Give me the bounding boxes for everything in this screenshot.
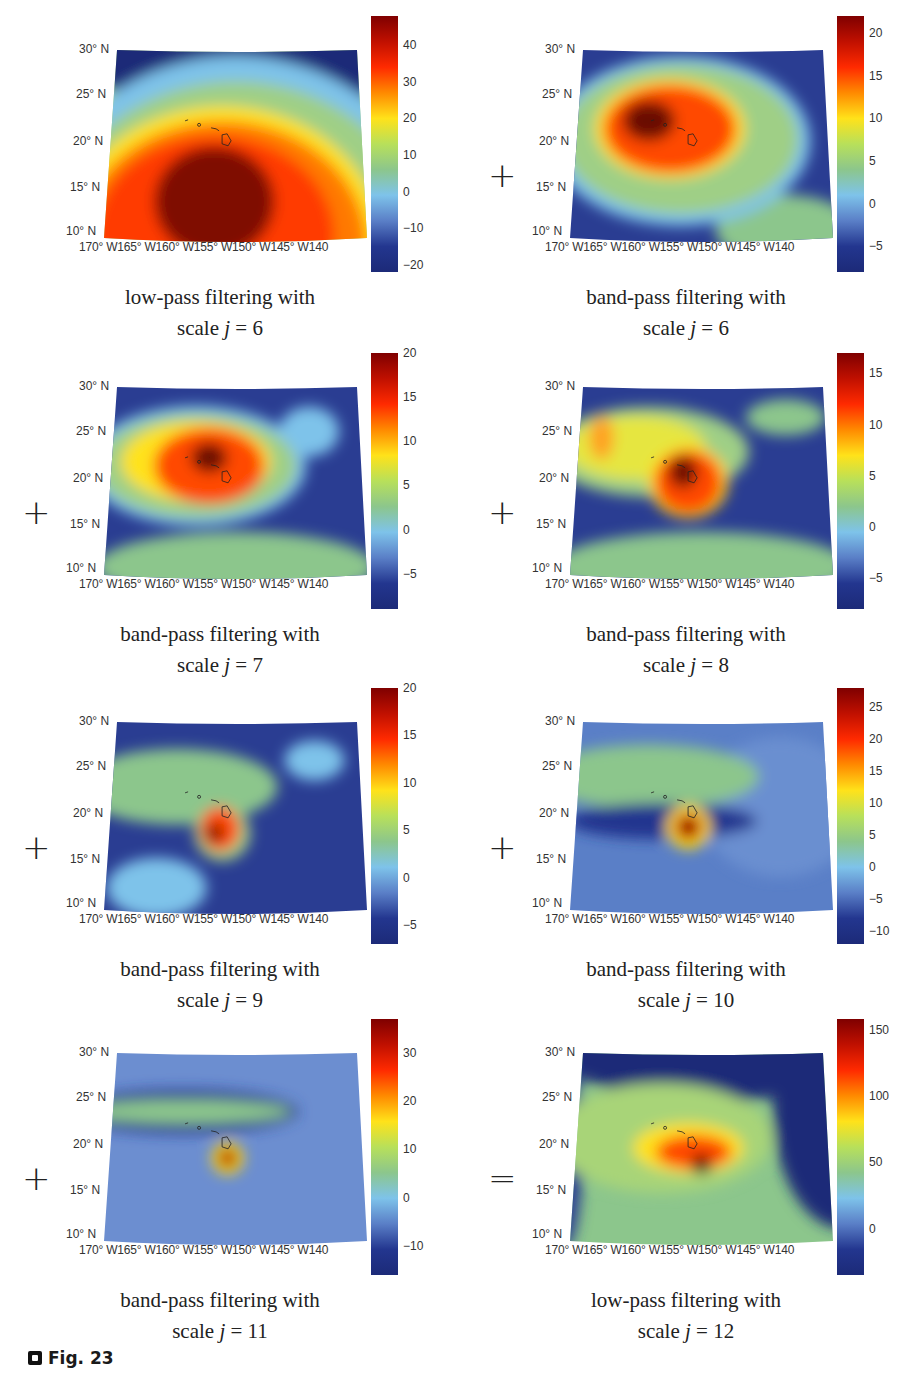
caption-scale-text: scale (638, 1319, 685, 1343)
latitude-label: 20° N (539, 471, 569, 485)
latitude-label: 25° N (76, 87, 106, 101)
latitude-label: 30° N (79, 714, 109, 728)
latitude-label: 30° N (545, 714, 575, 728)
colorbar-tick: 20 (869, 27, 882, 39)
figure-marker-icon (28, 1351, 42, 1365)
latitude-label: 30° N (79, 379, 109, 393)
caption-line-1: band-pass filtering with (536, 619, 836, 650)
panel-bp8: 151050−530° N25° N20° N15° N10° N170° W1… (466, 337, 906, 667)
heatmap-bp11 (0, 1003, 440, 1283)
caption-line-1: band-pass filtering with (536, 954, 836, 985)
colorbar-tick: 20 (869, 733, 882, 745)
caption-scale-text: scale (172, 1319, 219, 1343)
colorbar-tick: 30 (403, 76, 416, 88)
colorbar-tick: 30 (403, 1047, 416, 1059)
panel-caption: low-pass filtering withscale j = 6 (70, 282, 370, 344)
latitude-label: 15° N (70, 517, 100, 531)
longitude-labels: 170° W165° W160° W155° W150° W145° W140 (79, 240, 328, 254)
heatmap-bp9 (0, 672, 440, 952)
heatmap-bp6 (466, 0, 906, 280)
colorbar-tick: 0 (869, 198, 876, 210)
colorbar-tick: 10 (869, 797, 882, 809)
colorbar-bp9 (371, 688, 398, 944)
latitude-label: 10° N (66, 561, 96, 575)
heatmap-bp10 (466, 672, 906, 952)
caption-line-1: band-pass filtering with (536, 282, 836, 313)
colorbar-tick: 5 (869, 155, 876, 167)
colorbar-tick: −10 (869, 925, 889, 937)
colorbar-tick: −10 (403, 1240, 423, 1252)
colorbar-tick: 15 (403, 391, 416, 403)
latitude-label: 10° N (532, 224, 562, 238)
colorbar-bp7 (371, 353, 398, 609)
caption-line-1: low-pass filtering with (70, 282, 370, 313)
figure-label: Fig. 23 (28, 1348, 114, 1368)
colorbar-tick: 15 (403, 729, 416, 741)
colorbar-tick: 10 (403, 149, 416, 161)
caption-line-1: band-pass filtering with (70, 1285, 370, 1316)
plus-operator: + (22, 830, 51, 864)
colorbar-tick: −10 (403, 222, 423, 234)
latitude-label: 10° N (532, 896, 562, 910)
colorbar-tick: 15 (869, 70, 882, 82)
colorbar-tick: 10 (869, 419, 882, 431)
colorbar-tick: 0 (403, 1192, 410, 1204)
latitude-label: 30° N (79, 42, 109, 56)
colorbar-tick: 20 (403, 682, 416, 694)
latitude-label: 15° N (536, 180, 566, 194)
colorbar-tick: −5 (869, 240, 883, 252)
latitude-label: 10° N (532, 561, 562, 575)
latitude-label: 20° N (539, 134, 569, 148)
caption-line-1: band-pass filtering with (70, 619, 370, 650)
colorbar-tick: −5 (869, 572, 883, 584)
colorbar-tick: 5 (403, 824, 410, 836)
latitude-label: 30° N (545, 1045, 575, 1059)
colorbar-tick: −5 (403, 919, 417, 931)
figure-label-text: Fig. 23 (48, 1348, 114, 1368)
longitude-labels: 170° W165° W160° W155° W150° W145° W140 (545, 577, 794, 591)
plus-operator: + (488, 158, 517, 192)
colorbar-tick: 25 (869, 701, 882, 713)
colorbar-bp8 (837, 353, 864, 609)
colorbar-bp11 (371, 1019, 398, 1275)
colorbar-tick: 40 (403, 39, 416, 51)
panel-caption: low-pass filtering withscale j = 12 (536, 1285, 836, 1347)
longitude-labels: 170° W165° W160° W155° W150° W145° W140 (545, 240, 794, 254)
colorbar-tick: 5 (869, 470, 876, 482)
panel-bp9: 20151050−530° N25° N20° N15° N10° N170° … (0, 672, 440, 1002)
colorbar-tick: 10 (403, 777, 416, 789)
colorbar-tick: 0 (869, 861, 876, 873)
colorbar-tick: 0 (403, 524, 410, 536)
colorbar-tick: 0 (403, 186, 410, 198)
panel-bp7: 20151050−530° N25° N20° N15° N10° N170° … (0, 337, 440, 667)
colorbar-tick: 100 (869, 1090, 889, 1102)
heatmap-lp12 (466, 1003, 906, 1283)
colorbar-tick: −5 (403, 568, 417, 580)
latitude-label: 15° N (70, 1183, 100, 1197)
latitude-label: 25° N (76, 1090, 106, 1104)
caption-line-1: band-pass filtering with (70, 954, 370, 985)
panel-caption: band-pass filtering withscale j = 6 (536, 282, 836, 344)
colorbar-lp12 (837, 1019, 864, 1275)
colorbar-tick: 5 (403, 479, 410, 491)
colorbar-tick: −5 (869, 893, 883, 905)
caption-line-1: low-pass filtering with (536, 1285, 836, 1316)
colorbar-tick: 20 (403, 1095, 416, 1107)
latitude-label: 25° N (542, 1090, 572, 1104)
latitude-label: 15° N (536, 852, 566, 866)
panel-lp12: 15010050030° N25° N20° N15° N10° N170° W… (466, 1003, 906, 1333)
latitude-label: 25° N (542, 759, 572, 773)
longitude-labels: 170° W165° W160° W155° W150° W145° W140 (79, 1243, 328, 1257)
latitude-label: 20° N (73, 134, 103, 148)
colorbar-tick: 0 (869, 521, 876, 533)
plus-operator: + (22, 1161, 51, 1195)
latitude-label: 20° N (73, 806, 103, 820)
panel-caption: band-pass filtering withscale j = 11 (70, 1285, 370, 1347)
colorbar-tick: −20 (403, 259, 423, 271)
longitude-labels: 170° W165° W160° W155° W150° W145° W140 (79, 577, 328, 591)
colorbar-tick: 150 (869, 1024, 889, 1036)
longitude-labels: 170° W165° W160° W155° W150° W145° W140 (545, 912, 794, 926)
colorbar-bp10 (837, 688, 864, 944)
caption-scale-value: = 12 (691, 1319, 734, 1343)
colorbar-tick: 20 (403, 112, 416, 124)
